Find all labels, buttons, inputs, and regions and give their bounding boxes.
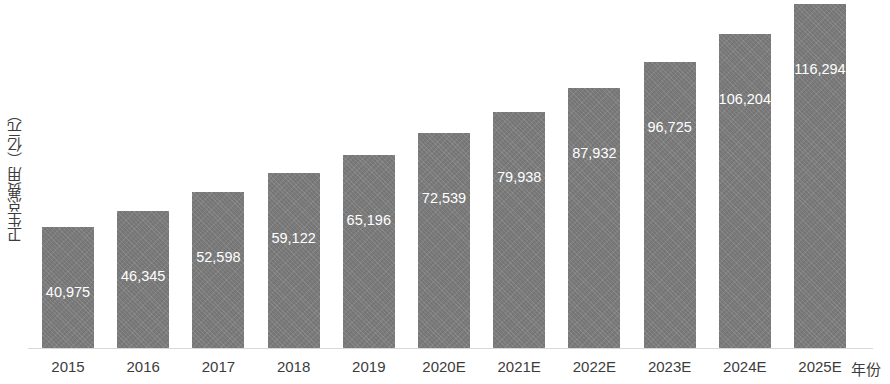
x-tick-label: 2017: [202, 358, 235, 375]
bar-group: 106,204: [719, 34, 771, 348]
bar-group: 79,938: [493, 112, 545, 348]
bar-group: 52,598: [192, 192, 244, 348]
x-tick-label: 2024E: [723, 358, 766, 375]
bar-group: 96,725: [644, 62, 696, 348]
bar-value-label: 52,598: [196, 249, 240, 265]
bar[interactable]: [192, 192, 244, 348]
bar-value-label: 96,725: [647, 119, 691, 135]
x-tick-label: 2021E: [498, 358, 541, 375]
bar-value-label: 106,204: [719, 91, 771, 107]
bar-group: 72,539: [418, 133, 470, 348]
bar[interactable]: [719, 34, 771, 348]
bar-value-label: 40,975: [46, 284, 90, 300]
bar[interactable]: [418, 133, 470, 348]
x-axis: 201520162017201820192020E2021E2022E2023E…: [28, 352, 890, 384]
bar[interactable]: [794, 4, 846, 348]
bar-group: 46,345: [117, 211, 169, 348]
bar-value-label: 72,539: [422, 190, 466, 206]
x-axis-baseline: [28, 348, 873, 349]
bar-value-label: 59,122: [271, 230, 315, 246]
bar-value-label: 65,196: [347, 212, 391, 228]
bar-group: 59,122: [268, 173, 320, 348]
bar-group: 116,294: [794, 4, 846, 348]
bar[interactable]: [568, 88, 620, 348]
x-axis-title-label: 年份: [851, 358, 881, 379]
x-tick-label: 2015: [51, 358, 84, 375]
bar-value-label: 79,938: [497, 169, 541, 185]
x-tick-label: 2025E: [798, 358, 841, 375]
x-tick-label: 2020E: [422, 358, 465, 375]
x-tick-label: 2023E: [648, 358, 691, 375]
bar[interactable]: [493, 112, 545, 348]
bar-chart: 卫生总费用（亿元） 40,97546,34552,59859,12265,196…: [0, 0, 890, 384]
y-axis-title-label: 卫生总费用（亿元）: [4, 107, 25, 242]
x-tick-label: 2018: [277, 358, 310, 375]
x-tick-label: 2016: [127, 358, 160, 375]
bar-value-label: 116,294: [794, 61, 845, 77]
x-tick-label: 2022E: [573, 358, 616, 375]
bar-group: 40,975: [42, 227, 94, 348]
x-tick-label: 2019: [352, 358, 385, 375]
bar-group: 87,932: [568, 88, 620, 348]
bar-value-label: 87,932: [572, 145, 616, 161]
bar[interactable]: [644, 62, 696, 348]
bar[interactable]: [268, 173, 320, 348]
bar-value-label: 46,345: [121, 268, 165, 284]
y-axis-title: 卫生总费用（亿元）: [0, 0, 28, 348]
bar[interactable]: [343, 155, 395, 348]
plot-area: 40,97546,34552,59859,12265,19672,53979,9…: [28, 0, 890, 349]
bar-group: 65,196: [343, 155, 395, 348]
